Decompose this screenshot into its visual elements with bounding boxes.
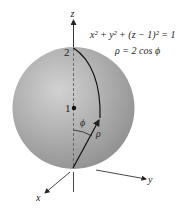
sphere-diagram: z y x 2 1 ϕ ρ x² + y² + (z − 1)² = 1 ρ =… bbox=[0, 0, 194, 209]
y-axis bbox=[96, 170, 146, 179]
rho-label: ρ bbox=[95, 128, 101, 139]
phi-label: ϕ bbox=[80, 117, 85, 128]
center-point bbox=[72, 106, 76, 110]
x-axis-label: x bbox=[35, 192, 41, 203]
z-axis-label: z bbox=[70, 8, 75, 19]
sphere-equation: x² + y² + (z − 1)² = 1 bbox=[89, 29, 175, 41]
tick-label-2: 2 bbox=[64, 46, 70, 58]
y-axis-label: y bbox=[147, 174, 153, 185]
tick-label-1: 1 bbox=[65, 102, 71, 114]
polar-equation: ρ = 2 cos ϕ bbox=[114, 45, 160, 56]
x-axis bbox=[45, 172, 70, 193]
